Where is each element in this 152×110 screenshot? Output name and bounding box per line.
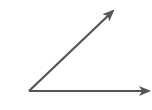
angle-diagram	[0, 0, 152, 110]
upper-ray	[29, 11, 113, 91]
